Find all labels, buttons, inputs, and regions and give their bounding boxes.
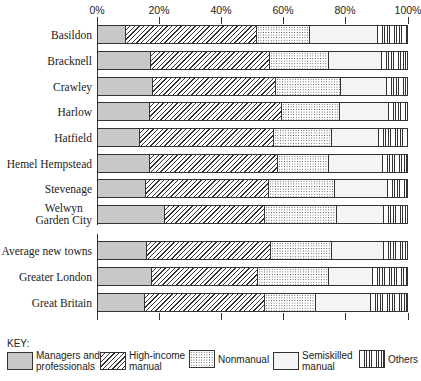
x-tick-mark bbox=[159, 17, 160, 24]
bar-segment bbox=[126, 26, 257, 43]
stacked-bar bbox=[97, 102, 408, 121]
bar-segment bbox=[310, 26, 379, 43]
bar-segment bbox=[98, 268, 152, 285]
bar-segment bbox=[383, 155, 406, 172]
x-tick-mark bbox=[283, 17, 284, 24]
x-tick-mark bbox=[283, 313, 284, 320]
row-label: Basildon bbox=[51, 29, 92, 41]
legend-swatch-icon bbox=[7, 352, 33, 370]
bar-segment bbox=[269, 180, 335, 197]
bar-segment bbox=[165, 206, 264, 223]
bar-segment bbox=[98, 26, 126, 43]
bar-segment bbox=[98, 294, 145, 311]
x-tick-label: 60% bbox=[272, 4, 293, 16]
legend-item: Managers and professionals bbox=[7, 350, 100, 372]
bar-segment bbox=[265, 206, 337, 223]
bar-segment bbox=[332, 242, 385, 259]
x-tick-label: 100% bbox=[395, 4, 421, 16]
x-tick-mark bbox=[221, 17, 222, 24]
row-label: Great Britain bbox=[32, 297, 92, 309]
legend-label: High-income manual bbox=[129, 350, 185, 372]
x-tick-mark bbox=[408, 17, 409, 24]
bar-segment bbox=[316, 294, 371, 311]
legend-item: Others bbox=[359, 350, 418, 368]
row-label: Bracknell bbox=[47, 55, 92, 67]
legend-label: Others bbox=[388, 354, 418, 365]
bar-segment bbox=[389, 103, 407, 120]
bar-segment bbox=[270, 52, 329, 69]
bar-segment bbox=[278, 155, 329, 172]
bar-segment bbox=[98, 206, 165, 223]
bar-segment bbox=[329, 52, 382, 69]
bar-segment bbox=[274, 129, 332, 146]
stacked-bar bbox=[97, 128, 408, 147]
bar-segment bbox=[335, 180, 388, 197]
stacked-bar bbox=[97, 77, 408, 96]
legend-item: Semiskilled manual bbox=[273, 350, 353, 372]
row-label: Greater London bbox=[19, 271, 92, 283]
stacked-bar bbox=[97, 179, 408, 198]
bar-segment bbox=[329, 155, 383, 172]
bar-segment bbox=[98, 78, 153, 95]
bar-segment bbox=[265, 294, 317, 311]
legend-label: Managers and professionals bbox=[36, 350, 100, 372]
bar-segment bbox=[257, 26, 310, 43]
bar-segment bbox=[98, 103, 150, 120]
bar-segment bbox=[98, 180, 146, 197]
bar-segment bbox=[153, 78, 276, 95]
stacked-bar bbox=[97, 154, 408, 173]
x-tick-mark bbox=[408, 313, 409, 320]
x-tick-mark bbox=[221, 313, 222, 320]
stacked-bar bbox=[97, 51, 408, 70]
bar-segment bbox=[382, 52, 407, 69]
bar-segment bbox=[151, 52, 270, 69]
bar-segment bbox=[271, 242, 331, 259]
bar-segment bbox=[150, 155, 279, 172]
x-tick-label: 40% bbox=[210, 4, 231, 16]
row-label: Harlow bbox=[58, 106, 93, 118]
bar-segment bbox=[146, 180, 269, 197]
x-tick-label: 20% bbox=[148, 4, 169, 16]
legend-swatch-icon bbox=[189, 350, 215, 368]
bar-segment bbox=[371, 294, 407, 311]
x-tick-mark bbox=[345, 17, 346, 24]
legend-swatch-icon bbox=[359, 350, 385, 368]
x-tick-mark bbox=[345, 313, 346, 320]
bar-segment bbox=[282, 103, 339, 120]
row-label: Welwyn Garden City bbox=[35, 202, 92, 226]
legend-title: KEY: bbox=[7, 338, 29, 349]
bar-segment bbox=[98, 155, 150, 172]
row-label: Average new towns bbox=[2, 245, 92, 257]
bar-segment bbox=[98, 242, 147, 259]
stacked-bar bbox=[97, 293, 408, 312]
row-label: Hemel Hempstead bbox=[7, 158, 92, 170]
stacked-bar bbox=[97, 205, 408, 224]
stacked-bar bbox=[97, 25, 408, 44]
stacked-bar bbox=[97, 267, 408, 286]
bar-segment bbox=[332, 129, 379, 146]
bar-segment bbox=[373, 268, 407, 285]
bar-segment bbox=[388, 180, 407, 197]
row-label: Crawley bbox=[53, 81, 92, 93]
bar-segment bbox=[379, 129, 407, 146]
bar-segment bbox=[276, 78, 342, 95]
stacked-bar bbox=[97, 241, 408, 260]
legend-swatch-icon bbox=[100, 352, 126, 370]
bar-segment bbox=[258, 268, 329, 285]
legend-item: Nonmanual bbox=[189, 350, 269, 368]
bar-segment bbox=[337, 206, 385, 223]
x-tick-label: 0% bbox=[89, 4, 104, 16]
legend-item: High-income manual bbox=[100, 350, 185, 372]
x-tick-label: 80% bbox=[334, 4, 355, 16]
bar-segment bbox=[98, 52, 151, 69]
bar-segment bbox=[145, 294, 265, 311]
legend-swatch-icon bbox=[273, 352, 299, 370]
bar-segment bbox=[341, 78, 387, 95]
bar-segment bbox=[384, 242, 407, 259]
bar-segment bbox=[152, 268, 258, 285]
legend-label: Semiskilled manual bbox=[302, 350, 353, 372]
bar-segment bbox=[140, 129, 273, 146]
bar-segment bbox=[384, 206, 407, 223]
bar-segment bbox=[329, 268, 373, 285]
legend-label: Nonmanual bbox=[218, 354, 269, 365]
